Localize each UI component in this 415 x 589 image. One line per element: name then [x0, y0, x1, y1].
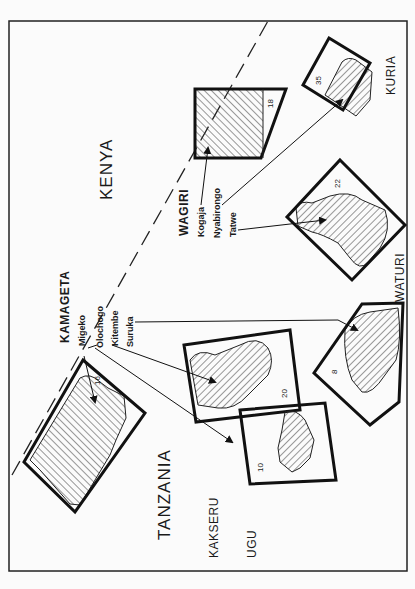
- plot-16: [24, 360, 145, 512]
- label-wagiri: WAGIRI: [177, 189, 191, 236]
- label-waturi: WATURI: [393, 253, 407, 302]
- plot-22: [287, 160, 405, 280]
- label-tatwe: Tatwe: [228, 212, 238, 237]
- label-kakseru: KAKSERU: [207, 497, 221, 558]
- label-ugu: UGU: [245, 530, 259, 558]
- label-tanzania: TANZANIA: [155, 449, 175, 540]
- label-kenya: KENYA: [97, 139, 117, 200]
- label-kamageta: KAMAGETA: [58, 271, 72, 343]
- label-kuria: KURIA: [384, 56, 398, 95]
- label-kitembe: Kitembe: [110, 310, 120, 346]
- label-olochogo: Olochogo: [95, 306, 105, 348]
- label-kogaja: Kogaja: [196, 207, 206, 237]
- plot-number-35: 35: [314, 76, 323, 85]
- label-suruka: Suruka: [125, 316, 135, 347]
- plot-number-8: 8: [330, 370, 339, 374]
- plot-number-20: 20: [280, 389, 289, 398]
- plot-8: [314, 303, 403, 425]
- plot-number-10: 10: [256, 463, 265, 472]
- plot-number-16: 16: [93, 376, 102, 385]
- label-migeko: Migeko: [77, 315, 87, 346]
- label-nyabirongo: Nyabirongo: [212, 188, 222, 238]
- plot-number-22: 22: [333, 179, 342, 188]
- map-figure: KENYA TANZANIA KURIA WATURI KAKSERU UGU …: [0, 0, 415, 589]
- plot-number-18: 18: [266, 99, 275, 108]
- plot-20: [184, 330, 300, 422]
